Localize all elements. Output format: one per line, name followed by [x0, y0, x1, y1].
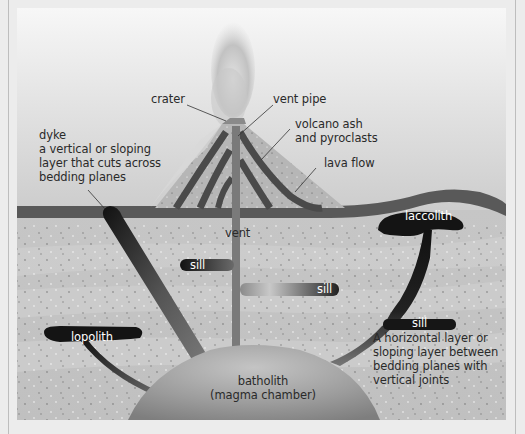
label-laccolith: laccolith	[405, 209, 452, 223]
diagram-frame: crater vent pipe volcano ash and pyrocla…	[0, 0, 525, 434]
label-sill-1: sill	[190, 258, 205, 272]
label-lopolith: lopolith	[71, 330, 113, 344]
label-batholith: batholith (magma chamber)	[210, 374, 316, 402]
label-lava-flow: lava flow	[324, 156, 375, 170]
label-sill-2: sill	[317, 282, 332, 296]
label-dyke-description: a vertical or sloping layer that cuts ac…	[39, 142, 161, 184]
label-volcano-ash: volcano ash and pyroclasts	[295, 117, 378, 145]
label-sill-3: sill	[412, 316, 427, 330]
label-sill-description: A horizontal layer or sloping layer betw…	[373, 331, 498, 387]
sill-1	[180, 259, 234, 271]
label-vent-pipe: vent pipe	[273, 92, 326, 106]
label-dyke-title: dyke	[39, 128, 66, 142]
label-vent: vent	[225, 226, 250, 240]
label-crater: crater	[151, 92, 185, 106]
